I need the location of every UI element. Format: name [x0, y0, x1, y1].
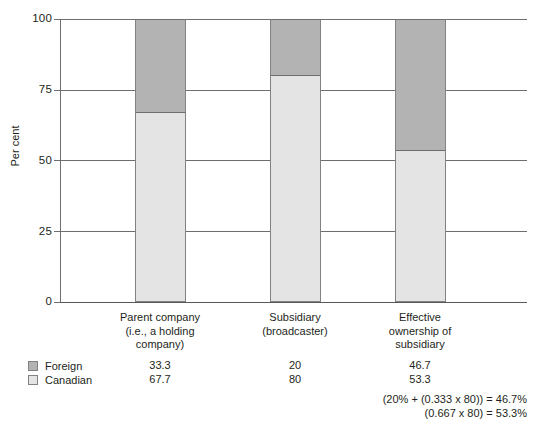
data-value-canadian-subsidiary: 80: [230, 373, 360, 385]
data-value-foreign-parent-company: 33.3: [95, 359, 225, 371]
bar-segment-foreign-effective-ownership[interactable]: [395, 19, 446, 151]
legend-swatch-canadian-icon: [28, 375, 38, 385]
category-label-line: Parent company: [95, 311, 225, 325]
y-tick-25: 25: [39, 225, 52, 237]
bar-subsidiary[interactable]: [270, 19, 321, 302]
bar-segment-canadian-effective-ownership[interactable]: [395, 151, 446, 302]
bar-effective-ownership[interactable]: [395, 19, 446, 302]
chart-figure: 100 75 50 25 0 Per cent Parent c: [0, 0, 539, 436]
y-tick-100: 100: [32, 12, 52, 24]
gridline-0-baseline: [60, 302, 527, 303]
category-label-line: Effective: [355, 311, 485, 325]
category-label-effective-ownership: Effective ownership of subsidiary: [355, 311, 485, 352]
plot-area: [60, 19, 527, 302]
bar-segment-canadian-parent-company[interactable]: [135, 113, 186, 302]
annotation-foreign-calculation: (20% + (0.333 x 80)) = 46.7%: [383, 392, 527, 406]
data-value-canadian-parent-company: 67.7: [95, 373, 225, 385]
category-label-line: company): [95, 338, 225, 352]
category-label-line: ownership of: [355, 325, 485, 339]
category-label-line: (broadcaster): [230, 325, 360, 339]
data-value-foreign-subsidiary: 20: [230, 359, 360, 371]
annotation-canadian-calculation: (0.667 x 80) = 53.3%: [383, 406, 527, 420]
y-tick-50: 50: [39, 154, 52, 166]
y-axis-title: Per cent: [9, 106, 21, 186]
data-value-foreign-effective-ownership: 46.7: [355, 359, 485, 371]
category-label-line: subsidiary: [355, 338, 485, 352]
bar-segment-canadian-subsidiary[interactable]: [270, 76, 321, 302]
bar-segment-foreign-parent-company[interactable]: [135, 19, 186, 113]
category-label-line: (i.e., a holding: [95, 325, 225, 339]
y-tick-75: 75: [39, 83, 52, 95]
bar-parent-company[interactable]: [135, 19, 186, 302]
category-label-parent-company: Parent company (i.e., a holding company): [95, 311, 225, 352]
bar-segment-foreign-subsidiary[interactable]: [270, 19, 321, 76]
chart-annotations: (20% + (0.333 x 80)) = 46.7% (0.667 x 80…: [383, 392, 527, 420]
data-value-canadian-effective-ownership: 53.3: [355, 373, 485, 385]
legend-swatch-foreign-icon: [28, 361, 38, 371]
category-label-line: Subsidiary: [230, 311, 360, 325]
y-tick-0: 0: [45, 295, 52, 307]
category-label-subsidiary: Subsidiary (broadcaster): [230, 311, 360, 338]
